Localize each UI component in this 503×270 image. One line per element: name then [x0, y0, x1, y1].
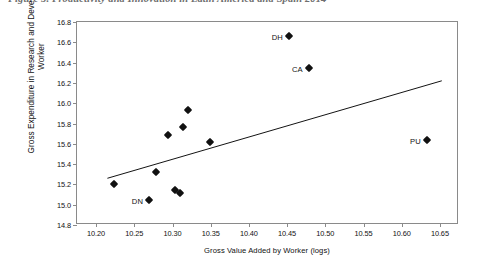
- x-axis-tick-label: 10.35: [202, 229, 220, 238]
- y-axis-tick: [73, 42, 77, 43]
- y-axis-tick-label: 14.8: [57, 221, 71, 230]
- y-axis-tick: [73, 22, 77, 23]
- x-axis-tick-label: 10.45: [278, 229, 296, 238]
- x-axis-title: Gross Value Added by Worker (logs): [76, 246, 458, 255]
- x-axis-tick: [211, 223, 212, 227]
- x-axis-tick: [249, 223, 250, 227]
- data-point-label: CA: [292, 65, 303, 74]
- x-axis-tick: [402, 223, 403, 227]
- y-axis-tick: [73, 63, 77, 64]
- plot-area: 14.815.015.215.415.615.816.016.216.416.6…: [76, 21, 458, 224]
- data-point-label: DH: [272, 32, 283, 41]
- y-axis-tick-label: 16.0: [57, 99, 71, 108]
- x-axis-tick: [440, 223, 441, 227]
- x-axis-tick-label: 10.60: [393, 229, 411, 238]
- figure-scatter-plot: Figure 5. Productivity and Innovation in…: [0, 0, 503, 270]
- x-axis-tick: [325, 223, 326, 227]
- y-axis-tick: [73, 144, 77, 145]
- y-axis-title: Gross Expenditure in Research and Develo…: [27, 0, 46, 159]
- y-axis-tick: [73, 103, 77, 104]
- x-axis-tick-label: 10.55: [355, 229, 373, 238]
- x-axis-tick: [364, 223, 365, 227]
- x-axis-tick: [173, 223, 174, 227]
- y-axis-tick-label: 16.2: [57, 78, 71, 87]
- x-axis-tick-label: 10.30: [164, 229, 182, 238]
- data-point-label: DN: [132, 197, 143, 206]
- x-axis-tick: [134, 223, 135, 227]
- y-axis-tick-label: 15.6: [57, 139, 71, 148]
- trend-line: [77, 22, 457, 223]
- y-axis-tick: [73, 205, 77, 206]
- y-axis-tick-label: 15.4: [57, 160, 71, 169]
- figure-caption: Figure 5. Productivity and Innovation in…: [8, 0, 348, 5]
- y-axis-tick: [73, 83, 77, 84]
- y-axis-tick: [73, 164, 77, 165]
- x-axis-tick-label: 10.40: [240, 229, 258, 238]
- y-axis-tick-label: 15.0: [57, 200, 71, 209]
- x-axis-tick: [96, 223, 97, 227]
- y-axis-tick-label: 16.8: [57, 18, 71, 27]
- y-axis-tick: [73, 124, 77, 125]
- x-axis-tick-label: 10.50: [316, 229, 334, 238]
- y-axis-tick: [73, 225, 77, 226]
- y-axis-tick-label: 15.2: [57, 180, 71, 189]
- y-axis-tick-label: 15.8: [57, 119, 71, 128]
- y-axis-tick-label: 16.4: [57, 58, 71, 67]
- x-axis-tick: [287, 223, 288, 227]
- x-axis-tick-label: 10.20: [87, 229, 105, 238]
- x-axis-tick-label: 10.25: [125, 229, 143, 238]
- y-axis-tick: [73, 184, 77, 185]
- data-point-label: PU: [410, 136, 421, 145]
- y-axis-tick-label: 16.6: [57, 38, 71, 47]
- x-axis-tick-label: 10.65: [431, 229, 449, 238]
